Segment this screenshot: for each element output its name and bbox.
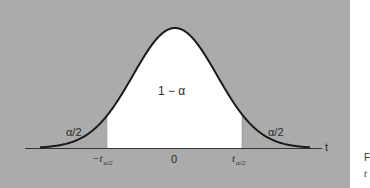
caption-line-2: t [364,168,367,179]
tick-right-main: t [232,152,235,164]
tick-zero: 0 [171,153,177,165]
caption-line-1: F [364,152,370,163]
tick-left-critical: −tα/2 [92,152,113,167]
axis-t-label: t [325,141,328,153]
tick-left-main: −t [92,152,102,164]
right-tail-label: α/2 [268,126,284,138]
center-area-label: 1 − α [158,84,185,98]
tick-right-sub: α/2 [236,159,245,167]
tick-left-sub: α/2 [103,159,112,167]
tick-right-critical: tα/2 [232,152,245,167]
left-tail-label: α/2 [66,126,82,138]
